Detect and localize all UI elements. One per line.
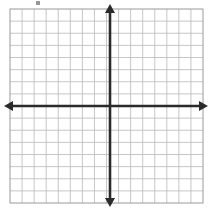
graph-canvas (0, 0, 212, 211)
coordinate-plane-figure (0, 0, 212, 211)
scan-artifact-mark (36, 1, 40, 5)
x-axis-left-arrowhead-icon (4, 101, 13, 111)
